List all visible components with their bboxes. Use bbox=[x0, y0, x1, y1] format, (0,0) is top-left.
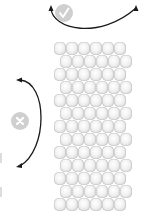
bead bbox=[120, 107, 132, 120]
bead bbox=[84, 107, 96, 120]
bead bbox=[114, 172, 126, 185]
bead bbox=[72, 107, 84, 120]
bead bbox=[54, 172, 66, 185]
bead bbox=[66, 42, 78, 55]
bead bbox=[66, 94, 78, 107]
bead bbox=[108, 81, 120, 94]
bead bbox=[66, 172, 78, 185]
bead bbox=[72, 81, 84, 94]
bead bbox=[78, 198, 90, 211]
bead bbox=[66, 68, 78, 81]
bead bbox=[72, 133, 84, 146]
bead bbox=[102, 94, 114, 107]
bead bbox=[78, 120, 90, 133]
bead bbox=[96, 159, 108, 172]
bead bbox=[84, 185, 96, 198]
bead bbox=[120, 133, 132, 146]
bead bbox=[78, 68, 90, 81]
bead bbox=[84, 159, 96, 172]
bead bbox=[96, 185, 108, 198]
bead bbox=[90, 68, 102, 81]
bead bbox=[102, 42, 114, 55]
bead bbox=[60, 81, 72, 94]
bead bbox=[78, 172, 90, 185]
bead bbox=[114, 94, 126, 107]
bead bbox=[108, 185, 120, 198]
bead bbox=[90, 42, 102, 55]
bead bbox=[114, 198, 126, 211]
bead-grid bbox=[0, 0, 145, 214]
bead bbox=[60, 55, 72, 68]
bead bbox=[84, 133, 96, 146]
bead bbox=[96, 55, 108, 68]
bead bbox=[120, 81, 132, 94]
bead bbox=[90, 120, 102, 133]
bead bbox=[60, 159, 72, 172]
bead bbox=[114, 120, 126, 133]
bead bbox=[90, 146, 102, 159]
bead bbox=[96, 133, 108, 146]
bead bbox=[54, 42, 66, 55]
bead bbox=[102, 198, 114, 211]
bead bbox=[108, 159, 120, 172]
bead bbox=[54, 120, 66, 133]
bead bbox=[66, 120, 78, 133]
bead bbox=[102, 120, 114, 133]
bead bbox=[84, 81, 96, 94]
bead bbox=[120, 55, 132, 68]
bead bbox=[90, 94, 102, 107]
bead bbox=[54, 198, 66, 211]
bead bbox=[108, 133, 120, 146]
bead bbox=[66, 146, 78, 159]
bead bbox=[66, 198, 78, 211]
bead bbox=[102, 172, 114, 185]
bead bbox=[54, 146, 66, 159]
bead bbox=[114, 68, 126, 81]
bead bbox=[60, 107, 72, 120]
bead bbox=[90, 198, 102, 211]
bead bbox=[108, 107, 120, 120]
bead bbox=[102, 146, 114, 159]
bead bbox=[60, 133, 72, 146]
bead bbox=[78, 42, 90, 55]
bead bbox=[114, 146, 126, 159]
bead bbox=[78, 94, 90, 107]
bead bbox=[90, 172, 102, 185]
bead bbox=[60, 185, 72, 198]
bead bbox=[96, 81, 108, 94]
bead bbox=[54, 94, 66, 107]
bead bbox=[108, 55, 120, 68]
bead bbox=[120, 185, 132, 198]
bead bbox=[54, 68, 66, 81]
bead bbox=[102, 68, 114, 81]
diagram-canvas bbox=[0, 0, 145, 214]
bead bbox=[72, 159, 84, 172]
bead bbox=[72, 185, 84, 198]
bead bbox=[84, 55, 96, 68]
bead bbox=[96, 107, 108, 120]
bead bbox=[114, 42, 126, 55]
bead bbox=[120, 159, 132, 172]
bead bbox=[78, 146, 90, 159]
bead bbox=[72, 55, 84, 68]
